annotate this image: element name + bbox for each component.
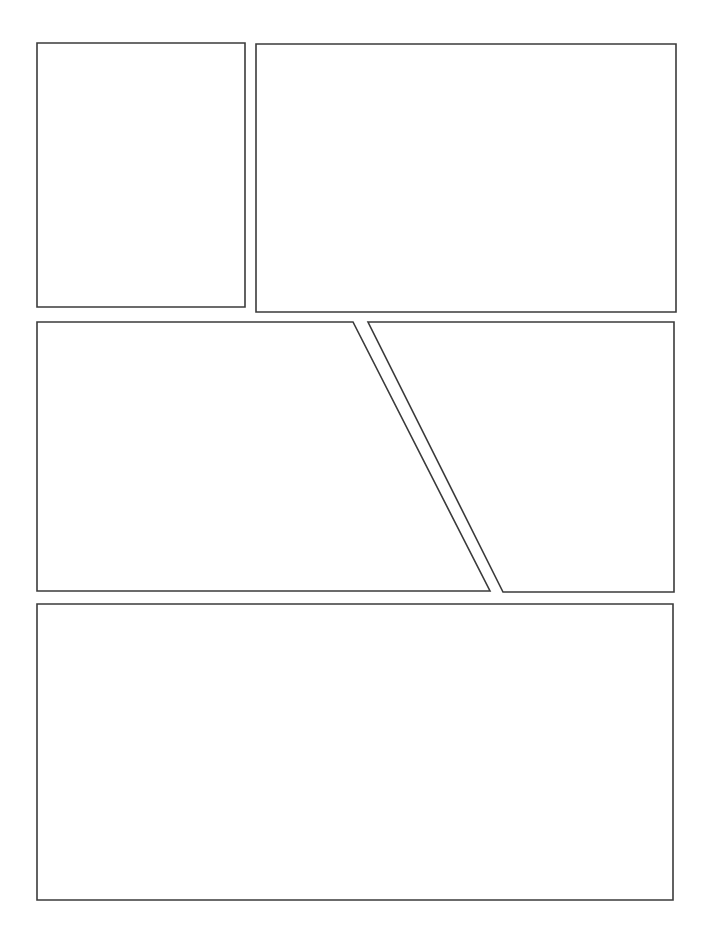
panel-1[interactable] [37,43,245,307]
panel-2[interactable] [256,44,676,312]
comic-page-canvas [0,0,706,941]
comic-page [0,0,706,941]
panel-5[interactable] [37,604,673,900]
